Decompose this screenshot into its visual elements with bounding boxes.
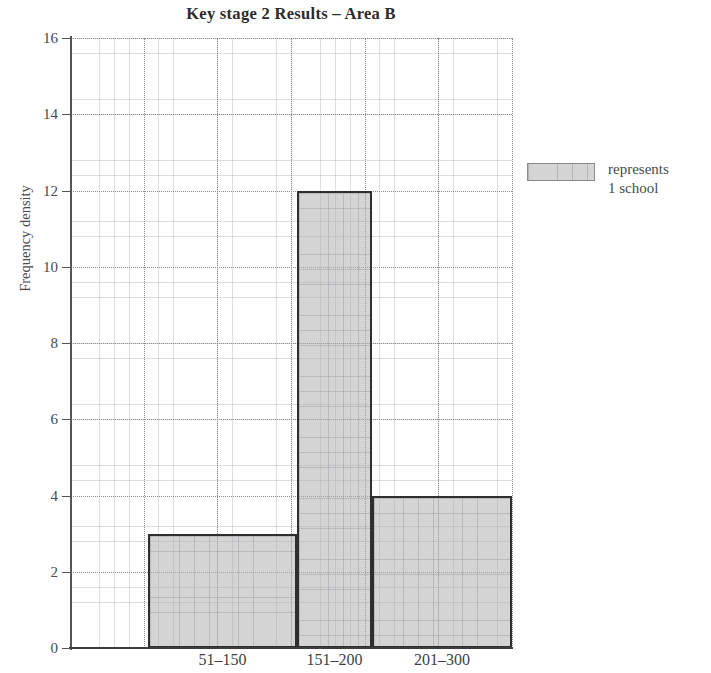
chart-title: Key stage 2 Results – Area B [70,4,512,24]
y-axis-tick [62,38,71,39]
bar-texture [299,193,370,647]
legend-text: represents 1 school [608,160,708,198]
x-axis-tick-label: 151–200 [275,651,395,669]
y-axis-tick [62,191,71,192]
x-axis-tick-label: 201–300 [382,651,502,669]
histogram-bar [372,496,512,649]
y-axis-tick [62,419,71,420]
x-axis-line [69,647,513,649]
bar-texture [150,536,295,646]
y-axis-tick [62,114,71,115]
y-axis-tick-label: 6 [14,411,58,428]
y-axis-tick-label: 2 [14,563,58,580]
x-axis-tick-label: 51–150 [163,651,283,669]
y-axis-tick-label: 8 [14,335,58,352]
histogram-bar [297,191,372,649]
y-axis-tick-label: 4 [14,487,58,504]
y-axis-tick-label: 10 [14,258,58,275]
y-axis-tick [62,572,71,573]
y-axis-tick [62,648,71,649]
bar-texture [374,498,510,647]
legend-label-line1: represents [608,160,708,179]
gridline-vertical [144,38,145,648]
gridline-vertical [512,38,513,648]
y-axis-tick-label: 14 [14,106,58,123]
y-axis-labels: 0246810121416 [0,0,58,673]
y-axis-tick-label: 16 [14,30,58,47]
legend-label-line2: 1 school [608,179,708,198]
histogram-bar [148,534,297,648]
y-axis-tick [62,267,71,268]
y-axis-tick [62,496,71,497]
y-axis-tick [62,343,71,344]
legend-swatch-icon [527,163,595,181]
y-axis-tick-label: 12 [14,182,58,199]
legend-swatch-texture [528,164,594,180]
plot-area [70,38,512,648]
y-axis-tick-label: 0 [14,640,58,657]
